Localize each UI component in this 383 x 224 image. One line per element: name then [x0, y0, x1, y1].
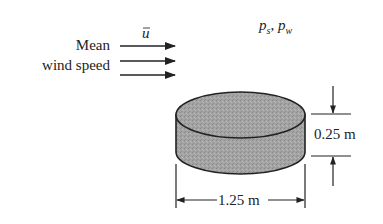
wind-arrows [120, 46, 175, 75]
p-s-symbol: p [259, 17, 267, 33]
separator: , [270, 17, 274, 33]
diameter-label: 1.25 m [218, 193, 260, 208]
p-w-subscript: w [285, 25, 292, 36]
wind-symbol-u: u [142, 26, 150, 41]
height-label: 0.25 m [314, 127, 356, 142]
diagram-canvas [0, 0, 383, 224]
wind-label-mean: Mean [76, 38, 110, 53]
cylinder [176, 92, 305, 174]
wind-label-speed: wind speed [42, 58, 110, 73]
cylinder-top [176, 92, 305, 138]
pressure-label: ps, pw [259, 18, 292, 36]
